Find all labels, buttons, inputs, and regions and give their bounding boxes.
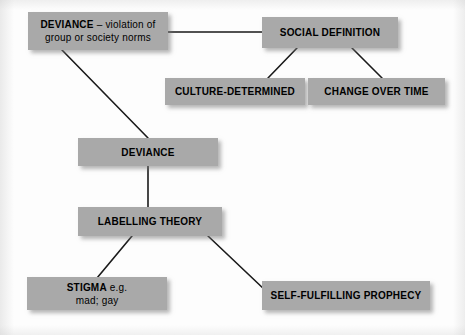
self-fulfilling-prophecy-label: SELF-FULFILLING PROPHECY <box>271 289 422 302</box>
edge-deviance-definition-to-deviance <box>62 50 148 138</box>
stigma-line1-bold: STIGMA <box>67 282 107 293</box>
social-definition-box[interactable]: SOCIAL DEFINITION <box>262 17 398 48</box>
stigma-line2: mad; gay <box>67 294 128 307</box>
labelling-theory-label: LABELLING THEORY <box>98 215 203 228</box>
social-definition-label: SOCIAL DEFINITION <box>280 26 380 39</box>
deviance-definition-box[interactable]: DEVIANCE – violation of group or society… <box>28 12 168 50</box>
stigma-line1-rest: e.g. <box>107 282 127 293</box>
diagram-canvas: DEVIANCE – violation of group or society… <box>0 0 465 335</box>
culture-determined-box[interactable]: CULTURE-DETERMINED <box>165 78 305 105</box>
self-fulfilling-prophecy-box[interactable]: SELF-FULFILLING PROPHECY <box>262 281 430 310</box>
edge-social-definition-to-change-over-time <box>352 48 382 78</box>
deviance-label: DEVIANCE <box>121 146 174 159</box>
deviance-definition-line1-rest: – violation of <box>94 19 156 30</box>
stigma-box[interactable]: STIGMA e.g. mad; gay <box>27 277 167 310</box>
edge-labelling-theory-to-self-fulfilling-prophecy <box>208 236 266 291</box>
deviance-box[interactable]: DEVIANCE <box>78 138 218 166</box>
culture-determined-label: CULTURE-DETERMINED <box>175 85 295 98</box>
deviance-definition-text: DEVIANCE – violation of group or society… <box>40 18 155 44</box>
labelling-theory-box[interactable]: LABELLING THEORY <box>78 207 222 236</box>
stigma-text: STIGMA e.g. mad; gay <box>67 281 128 307</box>
deviance-definition-line1-bold: DEVIANCE <box>40 19 93 30</box>
deviance-definition-line2: group or society norms <box>40 31 155 44</box>
edge-social-definition-to-culture-determined <box>268 48 297 78</box>
change-over-time-label: CHANGE OVER TIME <box>324 85 428 98</box>
change-over-time-box[interactable]: CHANGE OVER TIME <box>308 78 445 105</box>
edge-labelling-theory-to-stigma <box>97 236 132 278</box>
